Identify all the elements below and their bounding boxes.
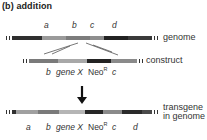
construct-segment: [58, 59, 87, 63]
transgene-segment: [85, 110, 103, 114]
transgene-label-gene-x: gene X: [56, 122, 83, 132]
construct-end-tick: [142, 59, 143, 63]
transgene-label-d: d: [133, 122, 138, 132]
construct-end-tick: [139, 59, 140, 63]
construct-label-gene-x: gene X: [56, 67, 83, 77]
transgene-label-line2: in genome: [163, 112, 205, 121]
transgene-end-tick: [9, 110, 10, 114]
construct-label-neo: NeoR: [88, 67, 108, 77]
construct-bar: [29, 59, 137, 63]
transgene-bar: [12, 110, 152, 114]
construct-segment: [87, 59, 110, 63]
transgene-segment: [38, 110, 58, 114]
construct-label-b: b: [46, 67, 51, 77]
transgene-end-tick: [157, 110, 158, 114]
transgene-segment: [59, 110, 85, 114]
transgene-label-b: b: [46, 122, 51, 132]
transgene-label-a: a: [26, 122, 31, 132]
transgene-end-tick: [6, 110, 7, 114]
transgene-label-neo: NeoR: [88, 122, 108, 132]
construct-label: construct: [146, 56, 183, 65]
construct-label-c: c: [112, 67, 116, 77]
transgene-label-c: c: [112, 122, 116, 132]
transgene-segment: [122, 110, 142, 114]
construct-segment: [29, 59, 58, 63]
transgene-segment: [142, 110, 152, 114]
transgene-segment: [16, 110, 38, 114]
down-arrow-icon: [77, 97, 87, 104]
construct-segment: [111, 59, 137, 63]
construct-end-tick: [26, 59, 27, 63]
transgene-segment: [103, 110, 121, 114]
transgene-end-tick: [154, 110, 155, 114]
construct-end-tick: [23, 59, 24, 63]
